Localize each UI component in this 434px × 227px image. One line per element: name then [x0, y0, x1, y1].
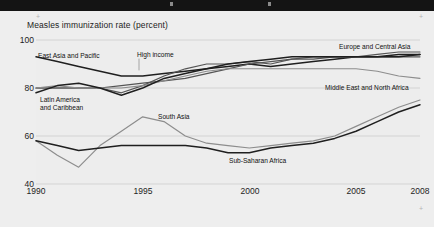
series-label-latin-america-and-caribbean: Latin America	[40, 96, 80, 104]
x-tick-1995: 1995	[123, 186, 163, 196]
series-label-sub-saharan-africa: Sub-Saharan Africa	[229, 157, 286, 165]
y-tick-80: 80	[12, 83, 34, 93]
x-tick-2008: 2008	[400, 186, 434, 196]
x-tick-2000: 2000	[230, 186, 270, 196]
x-tick-2005: 2005	[336, 186, 376, 196]
series-label-high-income: High income	[137, 51, 174, 59]
x-tick-1990: 1990	[16, 186, 56, 196]
series-label-europe-and-central-asia: Europe and Central Asia	[339, 43, 410, 51]
series-label-latin-america-and-caribbean-2: and Caribbean	[40, 104, 83, 112]
series-label-east-asia-and-pacific: East Asia and Pacific	[38, 52, 100, 60]
y-tick-100: 100	[12, 35, 34, 45]
chart-page: + + + Measles immunization rate (percent…	[0, 0, 434, 227]
y-tick-60: 60	[12, 131, 34, 141]
plot-area: 100 80 60 40 1990 1995 2000 2005 2008 Ea…	[0, 0, 434, 227]
plot-background	[36, 40, 420, 184]
series-label-middle-east-and-north-africa: Middle East and North Africa	[325, 84, 409, 92]
series-label-south-asia: South Asia	[158, 113, 190, 121]
